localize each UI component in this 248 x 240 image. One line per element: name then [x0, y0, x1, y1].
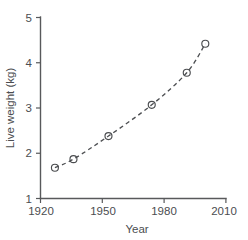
y-tick-label-1: 1 [26, 193, 32, 205]
y-tick-label-5: 5 [26, 12, 32, 24]
x-tick-label-2010: 2010 [211, 205, 237, 217]
y-axis-title: Live weight (kg) [4, 68, 16, 149]
x-tick-label-1920: 1920 [28, 205, 54, 217]
x-tick-label-1950: 1950 [90, 205, 116, 217]
y-tick-label-3: 3 [26, 102, 32, 114]
chart-figure: 5 4 3 2 1 1920 1950 1980 2010 Year Live … [0, 0, 248, 240]
scatter-plot: 5 4 3 2 1 1920 1950 1980 2010 Year Live … [0, 0, 248, 240]
x-tick-label-1980: 1980 [151, 205, 177, 217]
x-axis-title: Year [125, 223, 148, 235]
fitted-trend-curve [55, 44, 205, 168]
y-tick-label-4: 4 [26, 57, 33, 69]
data-layer [51, 40, 208, 171]
y-tick-label-2: 2 [26, 147, 32, 159]
data-point-marker [70, 156, 77, 163]
